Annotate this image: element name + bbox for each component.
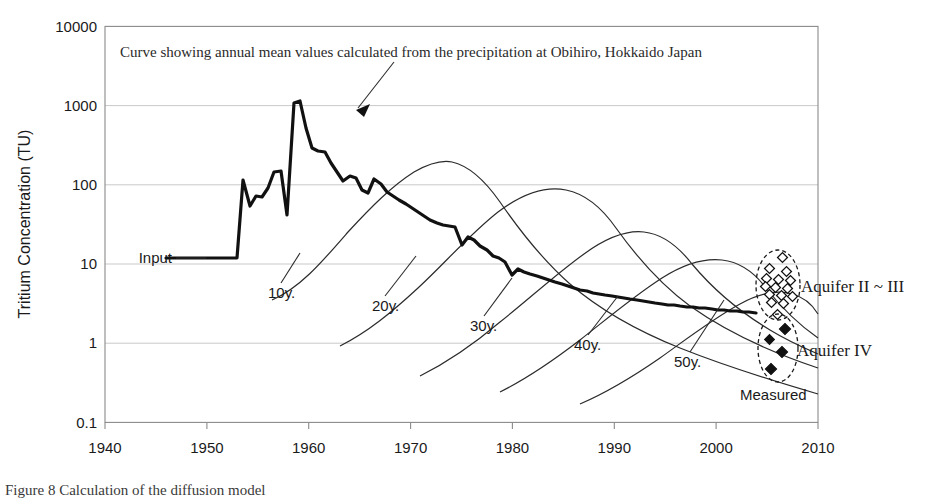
x-tick-label-1970: 1970	[394, 439, 427, 456]
y-tick-label-10000: 10000	[55, 18, 97, 35]
x-tick-label-1990: 1990	[598, 439, 631, 456]
y-tick-label-0.1: 0.1	[76, 414, 97, 431]
y-tick-label-10: 10	[80, 255, 97, 272]
x-tick-label-2000: 2000	[699, 439, 732, 456]
figure-container: 10000 1000 100 10 1 0.1 1940 1950 1960 1…	[0, 0, 925, 499]
label-50y: 50y.	[674, 353, 701, 370]
x-tick-label-1940: 1940	[88, 439, 121, 456]
x-tick-label-1980: 1980	[496, 439, 529, 456]
aquifer-2-3-label: Aquifer II ~ III	[801, 277, 904, 296]
input-label: Input	[139, 249, 173, 266]
label-40y: 40y.	[574, 336, 601, 353]
aquifer-4-label: Aquifer IV	[797, 341, 873, 360]
tritium-concentration-chart: 10000 1000 100 10 1 0.1 1940 1950 1960 1…	[0, 0, 925, 499]
label-20y: 20y.	[372, 297, 399, 314]
x-tick-label-1960: 1960	[292, 439, 325, 456]
x-tick-label-1950: 1950	[190, 439, 223, 456]
y-tick-label-100: 100	[72, 176, 97, 193]
y-tick-label-1: 1	[89, 334, 97, 351]
label-10y: 10y.	[268, 284, 295, 301]
figure-caption: Figure 8 Calculation of the diffusion mo…	[5, 482, 266, 498]
y-tick-label-1000: 1000	[64, 97, 97, 114]
y-axis-title: Tritium Concentration (TU)	[16, 130, 33, 319]
precipitation-note: Curve showing annual mean values calcula…	[120, 44, 702, 60]
label-30y: 30y.	[470, 317, 497, 334]
measured-label: Measured	[740, 386, 807, 403]
x-tick-label-2010: 2010	[801, 439, 834, 456]
